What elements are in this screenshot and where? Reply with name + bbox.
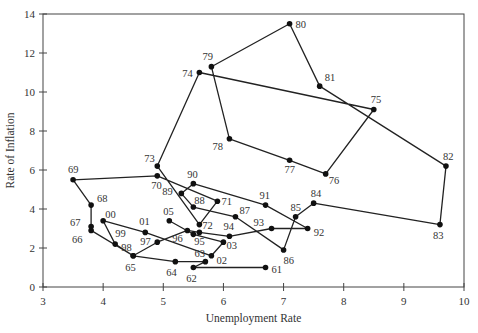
data-point-marker — [209, 64, 215, 70]
data-point-label: 84 — [311, 188, 322, 199]
data-point-label: 78 — [212, 141, 223, 152]
series-path — [73, 24, 446, 268]
data-point-marker — [233, 214, 239, 220]
y-tick-label: 14 — [24, 8, 36, 20]
data-line — [73, 24, 446, 268]
y-tick-label: 12 — [24, 47, 35, 59]
data-point-label: 72 — [202, 220, 213, 231]
data-point-label: 79 — [202, 51, 213, 62]
y-tick-label: 4 — [30, 203, 36, 215]
data-point-marker — [221, 239, 227, 245]
data-point-label: 98 — [121, 242, 132, 253]
data-point-marker — [70, 177, 76, 183]
x-tick-label: 5 — [161, 295, 167, 307]
data-point-label: 65 — [125, 262, 136, 273]
phillips-curve-chart: 345678910 02468101214 616263646566676869… — [0, 0, 478, 333]
data-point-label: 97 — [140, 236, 151, 247]
data-point-marker — [197, 230, 203, 236]
data-point-label: 91 — [260, 190, 271, 201]
data-point-marker — [130, 253, 136, 259]
data-point-label: 99 — [115, 228, 126, 239]
data-point-label: 87 — [239, 205, 250, 216]
data-point-marker — [191, 181, 197, 187]
data-point-marker — [293, 214, 299, 220]
y-axis-ticks: 02468101214 — [24, 8, 47, 293]
x-tick-label: 7 — [281, 295, 287, 307]
x-tick-label: 3 — [40, 295, 46, 307]
data-point-marker — [287, 157, 293, 163]
data-point-marker — [281, 247, 287, 253]
data-point-marker — [209, 253, 215, 259]
data-point-label: 82 — [443, 151, 454, 162]
data-point-label: 03 — [226, 240, 237, 251]
data-point-marker — [227, 136, 233, 142]
data-point-labels: 6162636465666768697071727374757677787980… — [68, 19, 453, 284]
x-tick-label: 10 — [459, 295, 471, 307]
data-point-label: 96 — [172, 233, 183, 244]
data-point-marker — [185, 228, 191, 234]
data-point-label: 62 — [186, 273, 197, 284]
data-point-marker — [443, 163, 449, 169]
y-tick-label: 0 — [30, 281, 36, 293]
data-point-label: 93 — [254, 217, 264, 228]
data-point-marker — [154, 239, 160, 245]
data-point-label: 01 — [139, 216, 150, 227]
data-point-marker — [269, 226, 275, 232]
data-point-label: 80 — [296, 19, 307, 30]
data-point-label: 88 — [194, 195, 205, 206]
data-point-label: 75 — [371, 94, 382, 105]
data-point-label: 61 — [272, 264, 283, 275]
plot-frame — [43, 14, 464, 287]
data-point-marker — [197, 222, 203, 228]
data-point-marker — [173, 259, 179, 265]
data-point-marker — [88, 202, 94, 208]
data-point-label: 92 — [314, 227, 325, 238]
data-point-label: 95 — [194, 236, 205, 247]
data-point-label: 74 — [182, 68, 193, 79]
data-point-marker — [154, 163, 160, 169]
data-point-label: 00 — [105, 209, 116, 220]
data-point-marker — [179, 191, 185, 197]
data-point-label: 02 — [216, 255, 227, 266]
data-point-marker — [305, 226, 311, 232]
data-point-label: 73 — [144, 153, 155, 164]
data-point-marker — [215, 198, 221, 204]
y-tick-label: 8 — [30, 125, 36, 137]
data-point-marker — [167, 218, 173, 224]
data-point-marker — [287, 21, 293, 27]
data-point-label: 76 — [329, 175, 340, 186]
data-point-marker — [317, 83, 323, 89]
data-point-label: 83 — [433, 230, 444, 241]
y-tick-label: 6 — [30, 164, 36, 176]
data-point-marker — [263, 265, 269, 271]
data-point-marker — [191, 265, 197, 271]
data-point-label: 05 — [163, 206, 174, 217]
data-point-marker — [142, 230, 148, 236]
data-point-marker — [88, 224, 94, 230]
data-point-marker — [437, 222, 443, 228]
y-axis-title: Rate of Inflation — [4, 112, 16, 188]
data-point-label: 68 — [97, 193, 108, 204]
data-point-label: 71 — [221, 196, 232, 207]
data-point-label: 66 — [72, 234, 83, 245]
data-point-label: 77 — [285, 164, 296, 175]
data-point-marker — [154, 173, 160, 179]
y-tick-label: 10 — [24, 86, 36, 98]
x-tick-label: 9 — [401, 295, 407, 307]
data-point-marker — [371, 107, 377, 113]
data-point-label: 64 — [166, 267, 177, 278]
data-point-label: 90 — [187, 169, 198, 180]
data-point-marker — [263, 202, 269, 208]
data-point-label: 63 — [194, 248, 205, 259]
y-tick-label: 2 — [30, 242, 36, 254]
data-point-label: 94 — [223, 221, 234, 232]
x-axis-title: Unemployment Rate — [206, 312, 302, 325]
data-point-marker — [227, 234, 233, 240]
data-point-label: 81 — [325, 72, 336, 83]
data-point-marker — [203, 259, 209, 265]
data-point-marker — [197, 70, 203, 76]
data-point-marker — [311, 200, 317, 206]
data-point-marker — [112, 241, 118, 247]
data-point-label: 70 — [151, 180, 162, 191]
data-point-label: 86 — [284, 255, 295, 266]
